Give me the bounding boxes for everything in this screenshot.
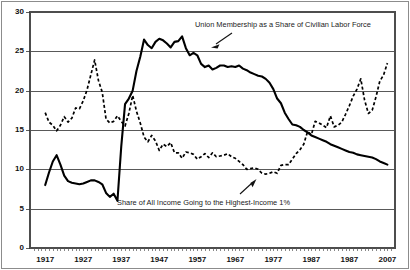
- union-annotation-text: Union Membership as a Share of Civilian …: [195, 20, 371, 29]
- y-tick-label-30: 30: [15, 7, 24, 16]
- x-tick-label-3: 1947: [150, 255, 168, 264]
- x-tick-label-7: 1987: [302, 255, 320, 264]
- x-tick-label-4: 1957: [188, 255, 206, 264]
- x-tick-label-5: 1967: [226, 255, 244, 264]
- chart-svg: 051015202530 191719271937194719571967197…: [0, 0, 410, 270]
- x-tick-label-6: 1977: [264, 255, 282, 264]
- y-tick-label-15: 15: [15, 125, 24, 134]
- x-tick-label-2: 1937: [112, 255, 130, 264]
- y-tick-label-25: 25: [15, 46, 24, 55]
- y-tick-label-10: 10: [15, 164, 24, 173]
- x-tick-label-8: 1987: [340, 255, 358, 264]
- y-tick-label-0: 0: [20, 243, 25, 252]
- x-tick-label-1: 1927: [74, 255, 92, 264]
- x-tick-label-0: 1917: [36, 255, 54, 264]
- income-annotation-text: Share of All Income Going to the Highest…: [117, 198, 290, 207]
- chart-background: [0, 0, 410, 270]
- y-tick-label-5: 5: [20, 204, 25, 213]
- x-tick-label-9: 2007: [378, 255, 396, 264]
- chart-container: 051015202530 191719271937194719571967197…: [0, 0, 410, 270]
- y-tick-label-20: 20: [15, 86, 24, 95]
